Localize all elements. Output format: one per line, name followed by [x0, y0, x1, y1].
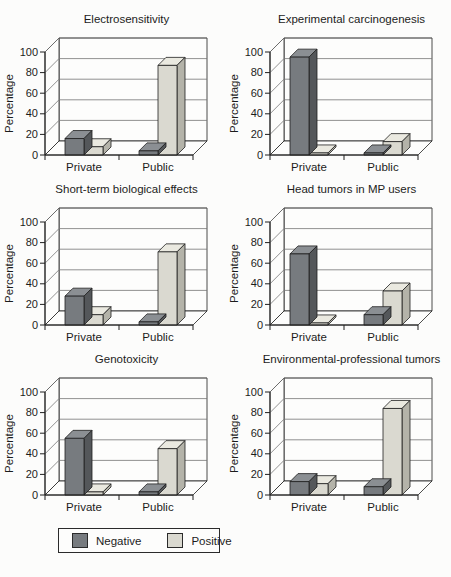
- bar-negative-private-side: [309, 49, 317, 155]
- left-wall: [45, 208, 59, 325]
- legend-item-negative: Negative: [72, 533, 141, 548]
- legend-label-positive: Positive: [191, 535, 231, 547]
- y-axis-label: Percentage: [228, 244, 240, 303]
- bar-negative-private-side: [309, 246, 317, 325]
- y-tick-label: 80: [26, 236, 38, 248]
- chart-title: Electrosensitivity: [1, 9, 226, 27]
- y-axis-label: Percentage: [3, 244, 15, 303]
- bar-negative-private: [65, 296, 84, 325]
- y-tick-label: 80: [26, 66, 38, 78]
- y-tick-label: 40: [251, 107, 263, 119]
- y-tick-label: 0: [32, 149, 38, 161]
- bar-negative-private: [290, 254, 309, 325]
- chart-panel-experimental-carcinogenesis: Experimental carcinogenesis 020406080100…: [226, 0, 451, 179]
- chart-panel-electrosensitivity: Electrosensitivity 020406080100PrivatePu…: [1, 0, 226, 179]
- chart-title: Experimental carcinogenesis: [226, 9, 451, 27]
- y-tick-label: 40: [26, 447, 38, 459]
- y-axis-label: Percentage: [3, 74, 15, 133]
- bar-positive-public: [158, 65, 177, 155]
- y-tick-label: 20: [251, 468, 263, 480]
- y-tick-label: 20: [251, 298, 263, 310]
- bar-chart-svg-environmental-professional-tumors: 020406080100PrivatePublicPercentage: [226, 367, 451, 519]
- y-tick-label: 0: [32, 489, 38, 501]
- y-tick-label: 0: [257, 319, 263, 331]
- x-category-label: Private: [291, 161, 327, 173]
- y-tick-label: 60: [26, 427, 38, 439]
- legend: Negative Positive: [58, 528, 220, 553]
- y-axis-label: Percentage: [228, 74, 240, 133]
- y-tick-label: 0: [257, 489, 263, 501]
- x-category-label: Private: [291, 501, 327, 513]
- bar-negative-private: [290, 482, 309, 495]
- left-wall: [45, 378, 59, 495]
- bar-negative-public: [364, 315, 383, 325]
- x-category-label: Private: [291, 331, 327, 343]
- y-tick-label: 100: [20, 386, 38, 398]
- x-category-label: Public: [142, 161, 174, 173]
- chart-panel-short-term-biological-effects: Short-term biological effects 0204060801…: [1, 179, 226, 349]
- y-tick-label: 60: [251, 87, 263, 99]
- y-tick-label: 100: [20, 46, 38, 58]
- y-tick-label: 60: [26, 257, 38, 269]
- y-tick-label: 80: [26, 406, 38, 418]
- y-tick-label: 40: [26, 107, 38, 119]
- bar-positive-public-side: [177, 57, 185, 155]
- bar-negative-private: [65, 139, 84, 155]
- y-axis-label: Percentage: [3, 414, 15, 473]
- left-wall: [45, 38, 59, 155]
- y-tick-label: 20: [26, 468, 38, 480]
- y-tick-label: 0: [257, 149, 263, 161]
- left-wall: [270, 208, 284, 325]
- x-category-label: Private: [66, 501, 102, 513]
- y-tick-label: 60: [26, 87, 38, 99]
- x-category-label: Public: [367, 161, 399, 173]
- y-tick-label: 100: [245, 386, 263, 398]
- bar-chart-svg-head-tumors-in-mp-users: 020406080100PrivatePublicPercentage: [226, 197, 451, 349]
- y-tick-label: 20: [251, 128, 263, 140]
- y-tick-label: 60: [251, 427, 263, 439]
- bar-negative-private-side: [84, 430, 92, 495]
- bar-negative-public: [364, 487, 383, 495]
- bar-negative-private: [65, 438, 84, 495]
- y-tick-label: 80: [251, 236, 263, 248]
- y-axis-label: Percentage: [228, 414, 240, 473]
- y-tick-label: 0: [32, 319, 38, 331]
- bar-chart-svg-short-term-biological-effects: 020406080100PrivatePublicPercentage: [1, 197, 226, 349]
- chart-title: Environmental-professional tumors: [226, 349, 451, 367]
- x-category-label: Public: [142, 331, 174, 343]
- bar-positive-public-side: [177, 441, 185, 495]
- chart-title: Head tumors in MP users: [226, 179, 451, 197]
- bar-chart-svg-experimental-carcinogenesis: 020406080100PrivatePublicPercentage: [226, 27, 451, 179]
- bar-chart-svg-electrosensitivity: 020406080100PrivatePublicPercentage: [1, 27, 226, 179]
- legend-label-negative: Negative: [96, 535, 141, 547]
- y-tick-label: 40: [26, 277, 38, 289]
- bar-chart-svg-genotoxicity: 020406080100PrivatePublicPercentage: [1, 367, 226, 519]
- left-wall: [270, 38, 284, 155]
- chart-panel-environmental-professional-tumors: Environmental-professional tumors 020406…: [226, 349, 451, 519]
- bar-positive-public-side: [402, 400, 410, 495]
- y-tick-label: 80: [251, 406, 263, 418]
- chart-grid: Electrosensitivity 020406080100PrivatePu…: [0, 0, 451, 519]
- y-tick-label: 60: [251, 257, 263, 269]
- y-tick-label: 20: [26, 298, 38, 310]
- x-category-label: Public: [367, 501, 399, 513]
- x-category-label: Public: [367, 331, 399, 343]
- y-tick-label: 40: [251, 277, 263, 289]
- chart-title: Short-term biological effects: [1, 179, 226, 197]
- legend-swatch-negative: [72, 533, 88, 548]
- x-category-label: Private: [66, 161, 102, 173]
- y-tick-label: 20: [26, 128, 38, 140]
- legend-swatch-positive: [167, 533, 183, 548]
- chart-panel-genotoxicity: Genotoxicity 020406080100PrivatePublicPe…: [1, 349, 226, 519]
- bar-positive-public-side: [177, 244, 185, 325]
- left-wall: [270, 378, 284, 495]
- bar-positive-public-side: [402, 283, 410, 325]
- y-tick-label: 100: [245, 46, 263, 58]
- legend-item-positive: Positive: [167, 533, 231, 548]
- chart-title: Genotoxicity: [1, 349, 226, 367]
- y-tick-label: 40: [251, 447, 263, 459]
- chart-panel-head-tumors-in-mp-users: Head tumors in MP users 020406080100Priv…: [226, 179, 451, 349]
- y-tick-label: 100: [20, 216, 38, 228]
- x-category-label: Private: [66, 331, 102, 343]
- bar-negative-public: [139, 151, 158, 155]
